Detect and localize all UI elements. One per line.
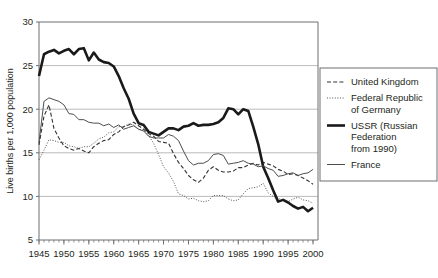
y-tick-label: 15 [22,147,33,158]
legend-label: Federal Republic [351,92,423,103]
legend-label: Federation [351,131,396,142]
legend-label: United Kingdom [351,76,419,87]
legend-label: France [351,159,381,170]
y-tick-label: 5 [28,234,33,245]
x-tick-label: 1990 [253,248,274,259]
line-chart-canvas: 5101520253019451950195519601965197019751… [0,0,438,278]
y-tick-label: 10 [22,191,33,202]
x-tick-label: 1995 [278,248,299,259]
x-tick-label: 1975 [178,248,199,259]
x-tick-label: 2000 [302,248,323,259]
x-tick-label: 1950 [53,248,74,259]
x-tick-label: 1970 [153,248,174,259]
x-tick-label: 1960 [103,248,124,259]
y-axis-title: Live births per 1,000 population [5,68,15,194]
x-tick-label: 1955 [78,248,99,259]
y-tick-label: 25 [22,60,33,71]
legend-label: of Germany [351,104,401,115]
y-tick-label: 30 [22,16,33,27]
x-tick-label: 1965 [128,248,149,259]
chart-figure: 5101520253019451950195519601965197019751… [0,0,438,278]
x-tick-label: 1980 [203,248,224,259]
legend-label: from 1990) [351,143,397,154]
legend-label: USSR (Russian [351,120,418,131]
x-tick-label: 1985 [228,248,249,259]
x-tick-label: 1945 [28,248,49,259]
y-tick-label: 20 [22,104,33,115]
